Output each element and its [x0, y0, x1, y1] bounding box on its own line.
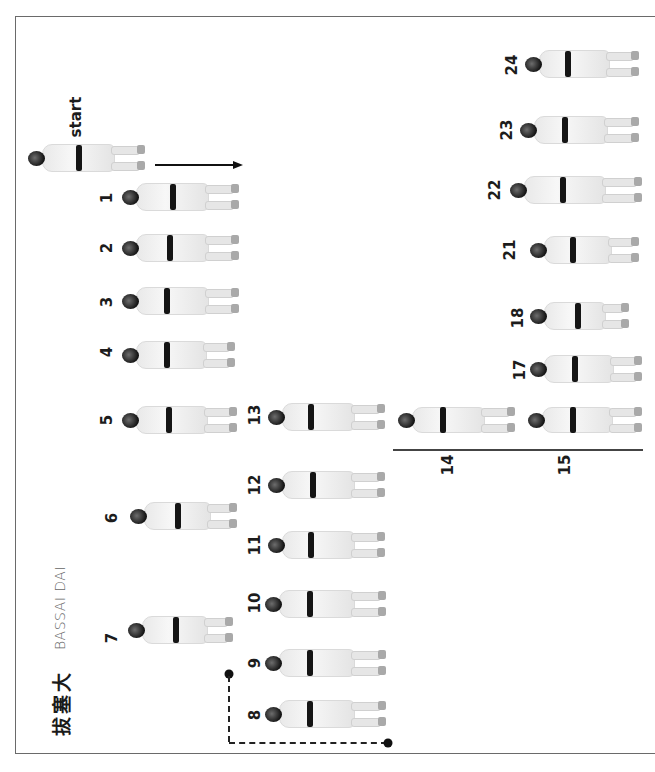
- section-separator: [393, 449, 643, 451]
- gi-body: [282, 403, 355, 431]
- head: [122, 348, 139, 363]
- foot: [631, 117, 639, 126]
- foot: [507, 423, 515, 432]
- black-belt: [570, 407, 576, 433]
- foot: [378, 717, 386, 726]
- figure-step-24: [525, 45, 640, 83]
- black-belt: [575, 303, 581, 329]
- head: [530, 309, 547, 324]
- black-belt: [440, 407, 446, 433]
- step-number-10: 10: [246, 593, 264, 614]
- head: [525, 57, 542, 72]
- gi-body: [136, 406, 208, 434]
- figure-step-14: [398, 405, 516, 435]
- path-end-dot: [384, 739, 393, 748]
- step-number-8: 8: [246, 710, 264, 720]
- foot: [377, 472, 385, 481]
- foot: [631, 67, 639, 76]
- foot: [377, 404, 385, 413]
- foot: [229, 503, 237, 512]
- dashed-path-horizontal: [229, 742, 387, 744]
- leg: [203, 343, 230, 352]
- gi-body: [544, 236, 612, 264]
- figure-step-22: [510, 165, 643, 215]
- leg: [606, 52, 634, 61]
- leg: [205, 305, 234, 314]
- figure-step-1: [122, 180, 240, 214]
- head: [530, 243, 547, 258]
- foot: [229, 407, 237, 416]
- foot: [227, 342, 235, 351]
- leg: [205, 201, 234, 210]
- head: [268, 410, 285, 425]
- step-number-13: 13: [246, 405, 264, 426]
- leg: [351, 405, 380, 414]
- figure-step-3: [122, 285, 240, 317]
- figure-step-13: [268, 393, 386, 441]
- head: [122, 413, 139, 428]
- foot: [634, 177, 642, 186]
- black-belt: [166, 407, 172, 433]
- leg: [351, 608, 381, 617]
- arrow-head-icon: [233, 161, 243, 169]
- head: [265, 707, 282, 722]
- foot: [631, 51, 639, 60]
- leg: [351, 489, 380, 498]
- leg: [481, 424, 510, 433]
- foot: [231, 304, 239, 313]
- gi-body: [534, 116, 608, 144]
- figure-step-10: [265, 580, 387, 628]
- leg: [111, 162, 140, 171]
- leg: [604, 134, 634, 143]
- black-belt: [307, 701, 313, 727]
- foot: [231, 251, 239, 260]
- step-number-14: 14: [439, 455, 457, 476]
- head: [122, 190, 139, 205]
- step-number-17: 17: [511, 360, 529, 381]
- foot: [507, 407, 515, 416]
- dashed-path-vertical: [228, 676, 230, 742]
- kata-title-japanese: 拔塞大: [47, 670, 74, 736]
- gi-body: [136, 341, 207, 369]
- black-belt: [308, 404, 314, 430]
- figure-step-23: [520, 112, 640, 148]
- direction-arrow-line: [155, 164, 235, 166]
- leg: [351, 667, 381, 676]
- black-belt: [565, 51, 571, 77]
- leg: [205, 185, 234, 194]
- black-belt: [164, 288, 170, 314]
- leg: [481, 408, 510, 417]
- foot: [377, 488, 385, 497]
- figure-step-12: [268, 462, 386, 508]
- leg: [606, 68, 634, 77]
- black-belt: [562, 117, 568, 143]
- foot: [378, 591, 386, 600]
- foot: [378, 666, 386, 675]
- head: [268, 538, 285, 553]
- step-number-3: 3: [98, 297, 116, 307]
- foot: [231, 200, 239, 209]
- black-belt: [310, 472, 316, 498]
- gi-body: [136, 287, 209, 315]
- step-number-7: 7: [103, 633, 121, 643]
- figure-step-8: [265, 690, 387, 738]
- foot: [634, 193, 642, 202]
- gi-body: [279, 590, 355, 618]
- foot: [377, 548, 385, 557]
- leg: [204, 408, 232, 417]
- black-belt: [572, 356, 578, 382]
- step-number-24: 24: [503, 55, 521, 76]
- leg: [351, 549, 380, 558]
- leg: [602, 178, 637, 187]
- figure-step-11: [268, 522, 386, 568]
- leg: [602, 194, 637, 203]
- foot: [231, 288, 239, 297]
- foot: [378, 701, 386, 710]
- head: [265, 597, 282, 612]
- head: [28, 151, 45, 166]
- step-number-4: 4: [98, 347, 116, 357]
- figure-step-5: [122, 400, 238, 440]
- leg: [205, 289, 234, 298]
- foot: [634, 356, 642, 365]
- black-belt: [170, 184, 176, 210]
